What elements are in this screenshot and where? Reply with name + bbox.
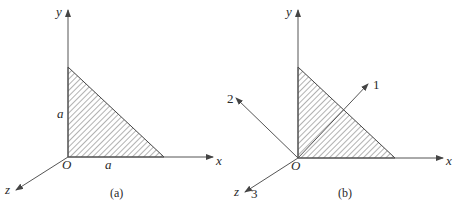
origin-label-b: O: [291, 158, 301, 173]
side-label-vertical-a: a: [57, 106, 64, 121]
principal-axis-3-label: 3: [251, 186, 258, 201]
hatched-triangle-b: [298, 67, 395, 158]
caption-a: (a): [110, 186, 123, 200]
figure-b: y x z 3 1 2 O (b): [227, 4, 452, 201]
x-axis-label-b: x: [445, 153, 452, 168]
hatched-triangle-a: [68, 67, 164, 157]
principal-axis-1-label: 1: [373, 77, 380, 92]
diagram-canvas: y x z O a a (a) y x z 3 1 2 O (b): [0, 0, 458, 210]
x-axis-label-a: x: [215, 153, 222, 168]
z-axis-a: [16, 157, 68, 190]
y-axis-label-b: y: [284, 4, 292, 19]
caption-b: (b): [338, 186, 352, 200]
z-axis-label-a: z: [4, 182, 10, 197]
side-label-horizontal-a: a: [105, 157, 112, 172]
principal-axis-2-label: 2: [227, 91, 234, 106]
figure-a: y x z O a a (a): [4, 4, 222, 200]
principal-axis-2: [236, 98, 298, 158]
origin-label-a: O: [62, 157, 72, 172]
y-axis-label-a: y: [54, 4, 62, 19]
z-axis-label-b: z: [233, 184, 239, 199]
